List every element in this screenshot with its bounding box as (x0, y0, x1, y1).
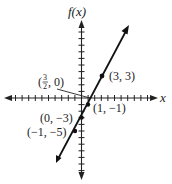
x-axis-right-arrow-icon (150, 95, 158, 101)
point-m1-m5 (73, 129, 77, 133)
svg-text:, 0): , 0) (48, 75, 64, 89)
y-axis-down-arrow-icon (79, 172, 85, 180)
label-point-0-m3: (0, −3) (40, 111, 73, 125)
svg-text:3: 3 (43, 73, 47, 82)
label-point-3-2-0: ( 3 2 , 0) (38, 73, 64, 91)
svg-text:2: 2 (43, 82, 47, 91)
line-upper-arrow-icon (122, 25, 130, 35)
label-point-m1-m5: (−1, −5) (27, 125, 67, 139)
x-axis-left-arrow-icon (4, 95, 12, 101)
y-axis-up-arrow-icon (79, 20, 85, 28)
y-axis-label: f(x) (68, 4, 86, 19)
x-axis-label: x (159, 90, 166, 105)
point-0-m3 (79, 115, 83, 119)
point-3-3 (100, 74, 105, 79)
label-point-3-3: (3, 3) (109, 69, 135, 83)
svg-text:(: ( (38, 75, 42, 89)
function-graph: f(x) x (3, 3) (1, −1) (0, −3) (−1, −5) (… (0, 0, 172, 184)
label-point-1-m1: (1, −1) (93, 101, 126, 115)
point-1-m1 (86, 102, 90, 106)
